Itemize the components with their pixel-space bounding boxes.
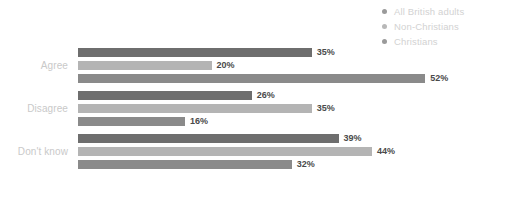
- chart-legend: All British adultsNon-ChristiansChristia…: [382, 5, 464, 48]
- legend-dot-icon: [382, 39, 387, 44]
- chart-plot-area: Agree35%20%52%Disagree26%35%16%Don't kno…: [0, 48, 508, 169]
- legend-item[interactable]: All British adults: [382, 5, 464, 18]
- category-label: Disagree: [0, 103, 78, 114]
- bar-row: 20%: [78, 61, 508, 70]
- legend-item[interactable]: Christians: [382, 35, 464, 48]
- bar-row: 44%: [78, 147, 508, 156]
- bar[interactable]: [78, 74, 425, 83]
- bar-group: Don't know39%44%32%: [0, 134, 508, 169]
- bar-value-label: 20%: [217, 61, 235, 70]
- legend-item-label: Non-Christians: [394, 20, 459, 33]
- legend-dot-icon: [382, 9, 387, 14]
- bar-value-label: 52%: [430, 74, 448, 83]
- bar-row: 39%: [78, 134, 508, 143]
- bar-group: Agree35%20%52%: [0, 48, 508, 83]
- category-label: Agree: [0, 60, 78, 71]
- bar-value-label: 35%: [317, 104, 335, 113]
- bar-row: 16%: [78, 117, 508, 126]
- bar-value-label: 26%: [257, 91, 275, 100]
- bar[interactable]: [78, 91, 252, 100]
- bar-row: 35%: [78, 104, 508, 113]
- category-label: Don't know: [0, 146, 78, 157]
- bar-group: Disagree26%35%16%: [0, 91, 508, 126]
- legend-item-label: Christians: [394, 35, 438, 48]
- legend-item[interactable]: Non-Christians: [382, 20, 464, 33]
- bar[interactable]: [78, 61, 212, 70]
- bar[interactable]: [78, 147, 372, 156]
- bar-group-bars: 35%20%52%: [78, 48, 508, 83]
- bar-value-label: 44%: [377, 147, 395, 156]
- bar-value-label: 32%: [297, 160, 315, 169]
- bar-row: 26%: [78, 91, 508, 100]
- bar-group-bars: 26%35%16%: [78, 91, 508, 126]
- bar[interactable]: [78, 104, 312, 113]
- bar-row: 35%: [78, 48, 508, 57]
- bar[interactable]: [78, 48, 312, 57]
- bar-value-label: 16%: [190, 117, 208, 126]
- bar[interactable]: [78, 160, 292, 169]
- bar-value-label: 39%: [344, 134, 362, 143]
- bar[interactable]: [78, 134, 339, 143]
- bar-chart: All British adultsNon-ChristiansChristia…: [0, 0, 508, 210]
- bar-value-label: 35%: [317, 48, 335, 57]
- bar-row: 32%: [78, 160, 508, 169]
- bar-group-bars: 39%44%32%: [78, 134, 508, 169]
- legend-item-label: All British adults: [394, 5, 464, 18]
- bar[interactable]: [78, 117, 185, 126]
- legend-dot-icon: [382, 24, 387, 29]
- bar-row: 52%: [78, 74, 508, 83]
